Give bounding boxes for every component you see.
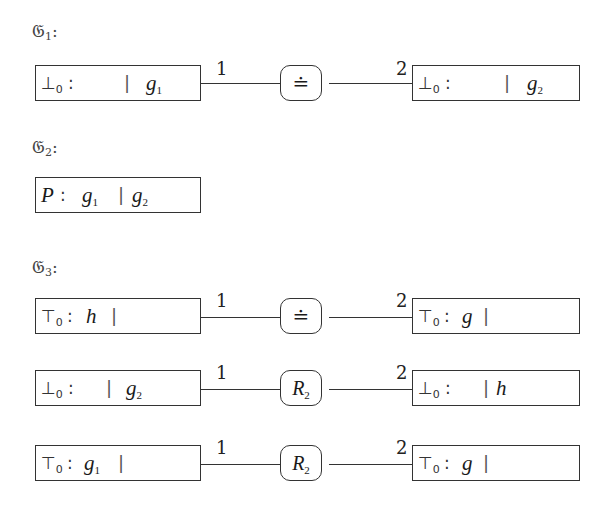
equality-node: ≐ [280, 65, 322, 101]
g3-row1-left-box: ⊤0 : h | [35, 298, 201, 334]
relation-r2-node: R2 [280, 370, 322, 406]
variable-g2: g2 [527, 66, 543, 107]
colon: : [444, 446, 450, 480]
colon: : [67, 446, 73, 480]
variable-g1: g1 [84, 446, 100, 487]
colon: : [52, 137, 58, 157]
g3-row3-right-box: ⊤0 : g | [412, 445, 580, 481]
graph-label-g3: 𝔊3: [32, 256, 58, 279]
bottom-symbol: ⊥0 [418, 66, 440, 107]
bottom-symbol: ⊥0 [418, 371, 440, 412]
colon: : [445, 66, 451, 100]
edge-left [201, 389, 280, 390]
port-label-2: 2 [396, 437, 407, 458]
colon: : [444, 299, 450, 333]
separator-bar: | [106, 371, 112, 405]
top-symbol: ⊤0 [418, 446, 440, 487]
fraktur-g: 𝔊 [32, 256, 45, 277]
fraktur-g: 𝔊 [32, 136, 45, 157]
port-label-1: 1 [216, 290, 227, 311]
graph-label-g2: 𝔊2: [32, 136, 58, 159]
variable-g: g [462, 299, 473, 333]
top-symbol: ⊤0 [41, 299, 63, 340]
colon: : [52, 21, 58, 41]
top-symbol: ⊤0 [41, 446, 63, 487]
equality-node: ≐ [280, 298, 322, 334]
edge-left [201, 317, 280, 318]
variable-g: g [462, 446, 473, 480]
graph-index: 1 [45, 30, 52, 43]
edge-right [329, 317, 412, 318]
separator-bar: | [483, 371, 489, 405]
separator-bar: | [483, 299, 489, 333]
bottom-symbol: ⊥0 [41, 371, 63, 412]
separator-bar: | [118, 178, 124, 212]
g3-row1-right-box: ⊤0 : g | [412, 298, 580, 334]
graph-index: 3 [45, 266, 52, 279]
colon: : [60, 178, 66, 212]
separator-bar: | [118, 446, 124, 480]
g3-row2-right-box: ⊥0 : | h [412, 370, 580, 406]
port-label-2: 2 [396, 290, 407, 311]
colon: : [67, 299, 73, 333]
edge-right [329, 83, 412, 84]
separator-bar: | [504, 66, 510, 100]
g1-right-box: ⊥0 : | g2 [412, 65, 580, 101]
variable-g2: g2 [126, 371, 142, 412]
colon: : [68, 66, 74, 100]
colon: : [445, 371, 451, 405]
edge-left [201, 464, 280, 465]
edge-left [201, 83, 280, 84]
port-label-1: 1 [216, 362, 227, 383]
fraktur-g: 𝔊 [32, 20, 45, 41]
variable-g1: g1 [82, 178, 98, 219]
g1-left-box: ⊥0 : | g1 [35, 65, 201, 101]
top-symbol: ⊤0 [418, 299, 440, 340]
graph-label-g1: 𝔊1: [32, 20, 58, 43]
g3-row2-left-box: ⊥0 : | g2 [35, 370, 201, 406]
separator-bar: | [483, 446, 489, 480]
separator-bar: | [124, 66, 130, 100]
port-label-2: 2 [396, 362, 407, 383]
g3-row3-left-box: ⊤0 : g1 | [35, 445, 201, 481]
g2-predicate-box: P : g1 | g2 [35, 177, 201, 213]
separator-bar: | [111, 299, 117, 333]
colon: : [68, 371, 74, 405]
port-label-1: 1 [216, 437, 227, 458]
relation-r2-node: R2 [280, 445, 322, 481]
bottom-symbol: ⊥0 [41, 66, 63, 107]
edge-right [329, 464, 412, 465]
graph-index: 2 [45, 146, 52, 159]
variable-g2: g2 [132, 178, 148, 219]
colon: : [52, 257, 58, 277]
variable-g1: g1 [146, 66, 162, 107]
port-label-1: 1 [216, 58, 227, 79]
port-label-2: 2 [396, 58, 407, 79]
variable-h: h [496, 371, 507, 405]
edge-right [329, 389, 412, 390]
predicate-p: P [41, 178, 54, 212]
variable-h: h [86, 299, 97, 333]
